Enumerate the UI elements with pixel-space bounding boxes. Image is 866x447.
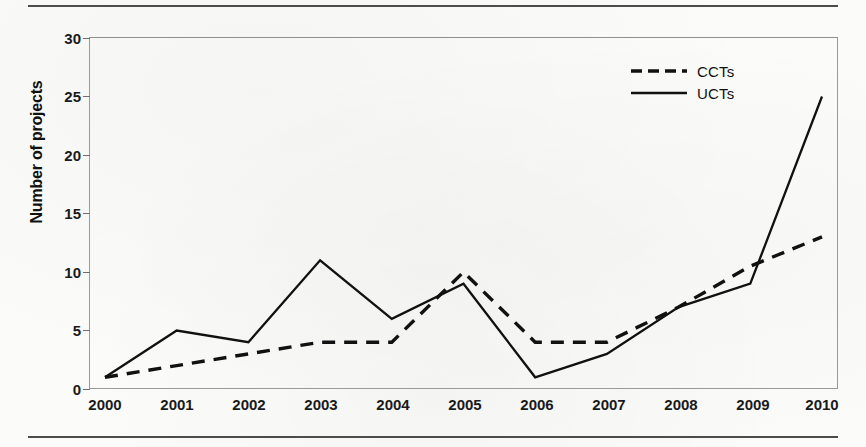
legend-swatch-dashed-icon: [630, 65, 688, 77]
legend: CCTs UCTs: [630, 60, 734, 104]
figure-page: Number of projects 0 5 10 15 20 25 30 20…: [0, 0, 866, 447]
series-line-ccts: [105, 237, 822, 377]
legend-label-ccts: CCTs: [697, 63, 734, 80]
legend-swatch-solid-icon: [630, 87, 688, 99]
legend-item-ucts[interactable]: UCTs: [630, 82, 734, 104]
series-line-ucts: [105, 97, 822, 378]
chart-series-canvas: [0, 0, 866, 447]
legend-label-ucts: UCTs: [697, 85, 734, 102]
legend-item-ccts[interactable]: CCTs: [630, 60, 734, 82]
